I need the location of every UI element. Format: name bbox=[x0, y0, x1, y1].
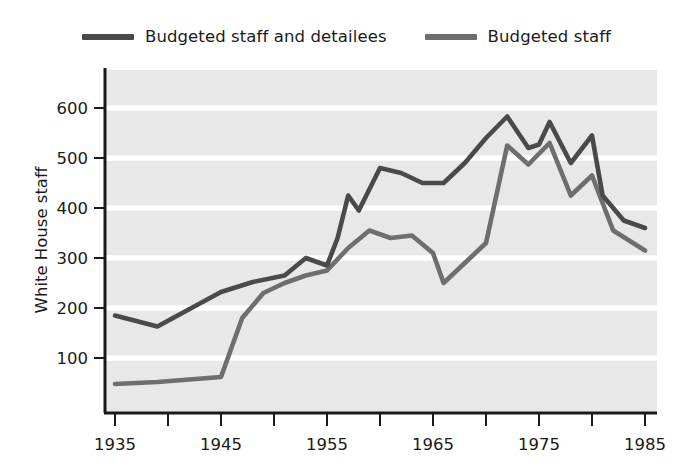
x-tick-label-1955: 1955 bbox=[306, 435, 348, 454]
x-tick-label-1945: 1945 bbox=[200, 435, 242, 454]
y-tick-label-600: 600 bbox=[57, 99, 89, 118]
y-tick-label-400: 400 bbox=[57, 199, 89, 218]
x-tick-label-1965: 1965 bbox=[412, 435, 454, 454]
chart-figure: Budgeted staff and detailees Budgeted st… bbox=[0, 0, 693, 473]
x-tick-label-1985: 1985 bbox=[624, 435, 666, 454]
y-tick-label-300: 300 bbox=[57, 249, 89, 268]
y-tick-label-100: 100 bbox=[57, 349, 89, 368]
y-tick-label-200: 200 bbox=[57, 299, 89, 318]
chart-plot-area: 1002003004005006001935194519551965197519… bbox=[0, 0, 693, 473]
plot-background bbox=[105, 70, 657, 413]
y-tick-label-500: 500 bbox=[57, 149, 89, 168]
x-tick-label-1975: 1975 bbox=[518, 435, 560, 454]
x-tick-label-1935: 1935 bbox=[94, 435, 136, 454]
